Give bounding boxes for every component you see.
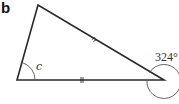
angle-arc-c [22, 63, 35, 80]
reflex-angle-arc [147, 64, 179, 98]
triangle-diagram [0, 0, 179, 104]
angle-label-c: c [36, 60, 42, 73]
reflex-angle-label: 324° [155, 50, 178, 65]
